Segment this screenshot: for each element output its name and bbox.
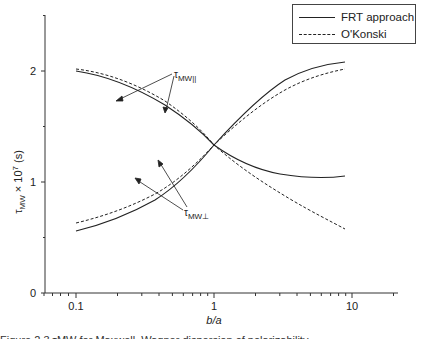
x-ticks: [44, 293, 394, 298]
legend-label: O'Konski: [341, 28, 387, 40]
annotation-tau-perpendicular: τMW⊥: [184, 207, 209, 221]
x-axis-title: b/a: [206, 314, 221, 326]
y-tick-label: 1: [30, 176, 36, 188]
x-tick-label: 1: [211, 300, 217, 312]
x-tick-label: 0.1: [68, 300, 83, 312]
y-axis-title: τMW × 107 (s): [11, 150, 27, 214]
y-axis-title-sub: MW: [18, 195, 27, 210]
svg-text:τMW × 107 (s): τMW × 107 (s): [11, 150, 27, 214]
legend: FRT approach O'Konski: [292, 4, 416, 44]
x-tick-label: 10: [346, 300, 358, 312]
y-tick-label: 0: [30, 287, 36, 299]
annotation-tau-parallel: τMW||: [174, 69, 196, 83]
frt-parallel-curve: [76, 71, 345, 177]
annotation-tau-perpendicular-sub: MW⊥: [188, 212, 209, 221]
annotation-pointers: [116, 74, 187, 210]
y-tick-label: 2: [30, 65, 36, 77]
annotation-tau-parallel-sub: MW||: [178, 74, 196, 83]
chart-canvas: 0.1 1 10 0 1 2 b/a τMW × 107 (s) τMW|| τ…: [0, 0, 422, 339]
legend-label: FRT approach: [341, 11, 414, 23]
y-axis-title-rest: × 10: [12, 170, 24, 195]
okonski-perpendicular-curve: [76, 69, 345, 223]
frt-perpendicular-curve: [76, 62, 345, 231]
legend-item-okonski: O'Konski: [299, 26, 387, 42]
solid-line-swatch-icon: [299, 17, 335, 18]
figure-caption: Figure 2.3 τMW for Maxwell–Wagner disper…: [0, 330, 422, 339]
y-axis-title-unit: (s): [12, 150, 24, 166]
legend-item-frt: FRT approach: [299, 9, 414, 25]
y-ticks: [41, 16, 45, 294]
dashed-line-swatch-icon: [299, 34, 335, 35]
